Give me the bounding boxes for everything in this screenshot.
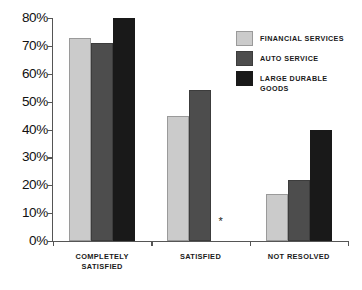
- x-axis-tick: [250, 241, 251, 246]
- y-axis-tick-label: 20%: [4, 179, 48, 193]
- y-axis-tick-label: 80%: [4, 11, 48, 25]
- y-axis-tick-label: 0%: [4, 234, 48, 248]
- legend-item: FINANCIAL SERVICES: [236, 31, 360, 46]
- legend-item: AUTO SERVICE: [236, 51, 360, 66]
- legend-swatch: [236, 71, 253, 86]
- missing-data-asterisk: *: [218, 216, 222, 227]
- bar: [288, 180, 310, 241]
- y-axis-tick: [47, 157, 52, 158]
- y-axis-labels: 80%70%60%50%40%30%20%10%0%: [4, 18, 48, 240]
- legend-label: LARGE DURABLE GOODS: [260, 71, 328, 93]
- y-axis-tick: [47, 130, 52, 131]
- x-axis-tick: [348, 241, 349, 246]
- bar: [266, 194, 288, 241]
- x-axis-category-label: SATISFIED: [151, 252, 249, 262]
- legend-item: LARGE DURABLE GOODS: [236, 71, 360, 93]
- bar: [113, 18, 135, 241]
- legend-label: AUTO SERVICE: [260, 51, 318, 64]
- chart-legend: FINANCIAL SERVICESAUTO SERVICELARGE DURA…: [236, 31, 360, 98]
- y-axis-tick: [47, 213, 52, 214]
- y-axis-tick: [47, 18, 52, 19]
- y-axis-tick: [47, 46, 52, 47]
- legend-swatch: [236, 31, 253, 46]
- y-axis-tick-label: 40%: [4, 123, 48, 137]
- bar-missing-slot: *: [211, 240, 233, 241]
- bar: [69, 38, 91, 241]
- y-axis-tick-label: 10%: [4, 206, 48, 220]
- bar: [91, 43, 113, 241]
- x-axis-category-label: NOT RESOLVED: [250, 252, 348, 262]
- y-axis-tick: [47, 241, 52, 242]
- y-axis-tick-label: 70%: [4, 39, 48, 53]
- bar: [189, 90, 211, 241]
- y-axis-tick-label: 50%: [4, 95, 48, 109]
- bar-chart: 80%70%60%50%40%30%20%10%0% * FINANCIAL S…: [0, 0, 362, 290]
- legend-label: FINANCIAL SERVICES: [260, 31, 344, 44]
- y-axis-tick: [47, 74, 52, 75]
- y-axis-tick: [47, 185, 52, 186]
- x-axis-tick: [53, 241, 54, 246]
- bar: [167, 116, 189, 241]
- bar: [310, 130, 332, 242]
- y-axis-tick-label: 60%: [4, 67, 48, 81]
- x-axis-category-label: COMPLETELY SATISFIED: [53, 252, 151, 272]
- bar-group: *: [151, 18, 249, 241]
- y-axis-tick-label: 30%: [4, 151, 48, 165]
- bar-group: [53, 18, 151, 241]
- legend-swatch: [236, 51, 253, 66]
- y-axis-tick: [47, 102, 52, 103]
- x-axis-tick: [151, 241, 152, 246]
